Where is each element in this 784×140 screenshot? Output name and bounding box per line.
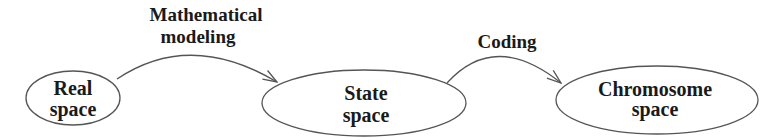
node-chromosome-space: Chromosome space (556, 66, 758, 134)
chromosome-space-label-line1: Chromosome (598, 78, 712, 100)
edge-label-modeling: modeling (161, 26, 236, 47)
chromosome-space-label-line2: space (632, 98, 679, 121)
node-state-space: State space (262, 70, 466, 136)
edge-label-mathematical: Mathematical (150, 4, 263, 25)
diagram-canvas: Real space State space Chromosome space … (0, 0, 784, 140)
state-space-label-line2: space (343, 104, 390, 127)
edge-label-coding: Coding (477, 31, 537, 52)
arrow-real-to-state (117, 55, 277, 82)
edge-coding: Coding (447, 31, 561, 83)
edge-mathematical-modeling: Mathematical modeling (117, 4, 277, 82)
arrow-state-to-chromosome (447, 57, 561, 84)
real-space-label-line2: space (50, 98, 97, 121)
state-space-label-line1: State (344, 82, 387, 104)
node-real-space: Real space (26, 71, 120, 125)
real-space-label-line1: Real (54, 77, 93, 99)
